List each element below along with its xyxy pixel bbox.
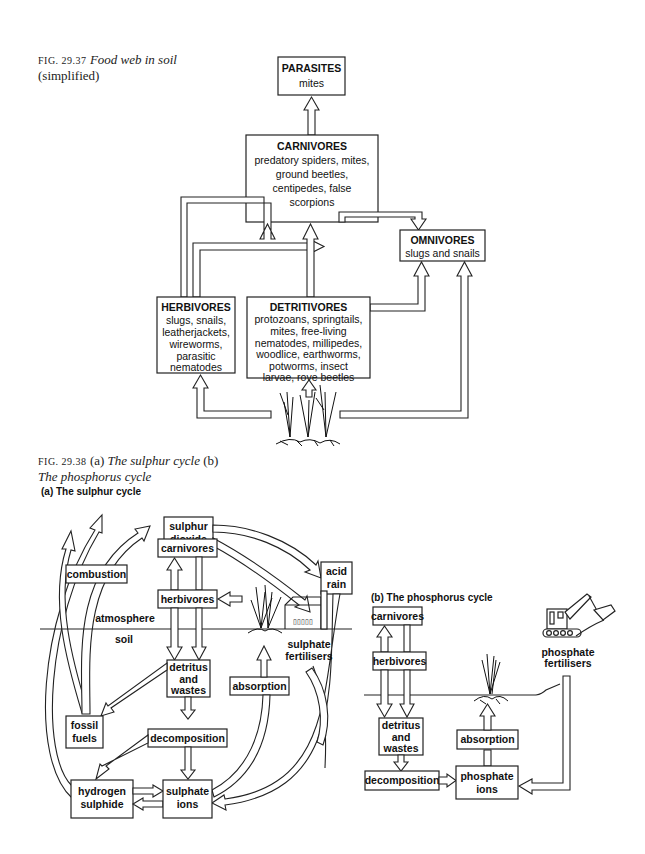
arrow-plant-to-herbivores [218,592,242,606]
arrow-decomposition-to-hydrogen-sulphide [96,735,148,779]
carnivores-line: centipedes, false [273,182,352,194]
plant-icon [474,654,508,704]
excavator-icon [543,594,615,637]
node-phosphorus-decomposition: decomposition [365,771,440,790]
sulphur-cycle-heading: (a) The sulphur cycle [41,486,141,497]
node-sulphur-decomposition: decomposition [148,729,227,747]
sulphate-fertilisers-label: sulphate [287,638,330,650]
arrow-herbivores-to-detritus [167,608,182,660]
fossil-fuels-label: fossil [71,719,99,731]
sulphate-fertilisers-label: fertilisers [285,650,332,662]
arrow-p-carnivores-to-detritus [400,670,414,717]
svg-text:▯▯▯▯▯: ▯▯▯▯▯ [293,618,313,625]
plant-icon [248,585,282,633]
node-sulphur-absorption: absorption [230,677,289,695]
phosphorus-herbivores-label: herbivores [373,655,427,667]
herbivores-line: wireworms, [168,338,222,350]
arrow-herbivores-to-carnivores-a [167,558,182,590]
node-sulphur-herbivores: herbivores [158,590,217,608]
node-sulphur-carnivores: carnivores [158,539,217,557]
arrow-plants-to-herbivores [193,375,271,418]
phosphorus-carnivores-label: carnivores [371,610,424,622]
node-phosphate-ions: phosphate ions [456,766,518,799]
detritus-label: wastes [170,684,206,696]
arrow-carnivores-to-detritus [192,608,206,660]
carnivores-line: ground beetles, [276,168,348,180]
parasites-title: PARASITES [282,62,341,74]
arrow-detritus-to-decomposition [181,697,195,719]
carnivores-line: scorpions [290,196,335,208]
herbivores-line: leatherjackets, [162,326,230,338]
arrow-detritivores-to-omnivores [370,262,429,311]
phosphorus-cycle-heading: (b) The phosphorus cycle [371,592,493,603]
atmosphere-label: atmosphere [95,612,155,624]
sulphur-herbivores-label: herbivores [161,593,215,605]
acid-rain-label: rain [327,578,346,590]
arrow-carnivores-to-parasites [304,97,319,135]
node-parasites: PARASITES mites [278,57,345,95]
node-hydrogen-sulphide: hydrogen sulphide [71,780,133,818]
arrow-p-fertilisers-to-phosphate-ions [519,676,570,794]
phosphate-ions-label: phosphate [460,770,513,782]
node-omnivores: OMNIVORES slugs and snails [400,230,485,261]
node-phosphorus-detritus: detritus and wastes [379,718,423,755]
arrow-p-herbivores-to-carnivores [377,626,392,652]
p-detritus-label: detritus [382,719,421,731]
arrow-carnivores-down [196,557,202,590]
node-herbivores: HERBIVORES slugs, snails, leatherjackets… [157,297,235,373]
p-detritus-label: wastes [382,742,418,754]
node-sulphate-ions: sulphate ions [163,780,212,818]
hydrogen-sulphide-label: hydrogen [78,785,126,797]
sulphate-ions-label: ions [177,798,199,810]
phosphate-fertilisers-label: fertilisers [544,657,591,669]
sulphur-absorption-label: absorption [232,680,286,692]
arrow-detritivores-to-carnivores [303,224,318,297]
arrow-p-decomposition-to-phosphate-ions [439,774,456,787]
carnivores-line: predatory spiders, mites, [255,154,370,166]
detritivores-line: woodlice, earthworms, [255,348,360,360]
p-absorption: absorption [457,730,518,749]
sulphur-carnivores-label: carnivores [161,542,214,554]
acid-rain-label: acid [326,565,347,577]
node-acid-rain: acid rain [321,562,352,594]
phosphorus-decomposition-label: decomposition [365,774,440,786]
parasites-text: mites [299,77,324,89]
fossil-fuels-label: fuels [72,732,97,744]
hydrogen-sulphide-label: sulphide [80,798,123,810]
arrow-p-herbivores-to-detritus [377,670,392,717]
combustion-label: combustion [67,568,127,580]
arrow-p-ions-to-absorption [484,750,491,766]
arrow-herbivores-to-omnivores [193,239,324,297]
node-fossil-fuels: fossil fuels [66,716,103,748]
detritivores-line: mites, free-living [270,325,347,337]
arrow-absorption-to-plant [257,646,271,677]
arrow-detritus-to-fossil-fuels [101,663,167,716]
omnivores-title: OMNIVORES [410,234,474,246]
arrow-hydrogen-sulphide-to-sulphur-dioxide [45,515,102,798]
node-combustion: combustion [66,565,127,583]
detritivores-line: protozoans, springtails, [255,313,363,325]
phosphorus-cycle-diagram: (b) The phosphorus cycle carnivores herb… [364,592,615,799]
soil-label: soil [115,633,133,645]
node-detritivores: DETRITIVORES protozoans, springtails, mi… [247,297,370,383]
herbivores-title: HERBIVORES [161,301,230,313]
detritus-label: detritus [169,661,208,673]
arrow-decomposition-to-sulphate-ions [181,747,195,779]
sulphur-cycle-diagram: (a) The sulphur cycle sulphur dioxide ac… [40,486,352,818]
sulphur-decomposition-label: decomposition [150,732,225,744]
node-phosphorus-carnivores: carnivores [371,607,424,625]
arrow-p-carnivores-down [404,625,410,652]
node-sulphur-detritus: detritus and wastes [167,660,210,697]
food-web-diagram: PARASITES mites CARNIVORES predatory spi… [157,57,485,446]
detritivores-title: DETRITIVORES [270,301,348,313]
arrow-p-detritus-to-decomposition [394,755,408,771]
phosphorus-absorption-label: absorption [460,733,514,745]
omnivores-text: slugs and snails [405,247,480,259]
diagram-canvas: PARASITES mites CARNIVORES predatory spi… [0,0,645,854]
arrow-sulphate-ions-to-hydrogen-sulphide [133,798,163,810]
phosphate-ions-label: ions [476,783,498,795]
sulphate-ions-label: sulphate [166,785,209,797]
node-phosphorus-herbivores: herbivores [373,652,427,670]
sulphur-dioxide-label: sulphur [169,520,208,532]
arrow-p-absorption-to-plant [480,704,495,730]
